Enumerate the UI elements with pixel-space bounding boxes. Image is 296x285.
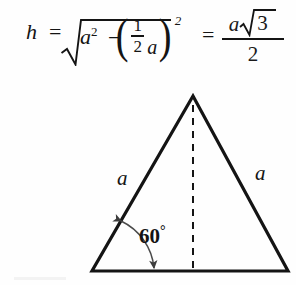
angle-value: 60 bbox=[139, 224, 160, 248]
result-fraction-bar bbox=[222, 38, 284, 40]
paren-open: ( bbox=[116, 18, 129, 53]
triangle-svg bbox=[0, 78, 296, 285]
result-fraction: a 3 2 bbox=[222, 7, 284, 67]
fraction-numerator: 1 bbox=[132, 17, 145, 34]
triangle-diagram: a a 60° bbox=[0, 78, 296, 285]
paren-close: ) bbox=[159, 18, 172, 53]
result-numerator: a 3 bbox=[226, 7, 281, 37]
result-denominator: 2 bbox=[248, 42, 259, 67]
result-sqrt-group: 3 bbox=[239, 7, 277, 37]
radicand-a: a bbox=[80, 24, 91, 49]
figure-root: h = a2 − ( 1 2 a ) 2 = a bbox=[0, 0, 296, 285]
degree-symbol: ° bbox=[160, 223, 166, 238]
scan-artifact bbox=[14, 277, 66, 280]
paren-exponent: 2 bbox=[175, 14, 182, 27]
radicand-first-term: a2 bbox=[80, 25, 98, 48]
result-numerator-a: a bbox=[229, 12, 240, 37]
result-sqrt-radicand: 3 bbox=[257, 11, 268, 36]
radicand-a-exponent: 2 bbox=[91, 24, 98, 39]
equals-sign-2: = bbox=[202, 24, 214, 46]
side-label-a-right: a bbox=[255, 161, 266, 186]
inner-variable-a: a bbox=[147, 37, 157, 57]
formula-block: h = a2 − ( 1 2 a ) 2 = a bbox=[0, 0, 296, 78]
side-label-a-left: a bbox=[117, 166, 128, 191]
parenthesized-half-a-squared: ( 1 2 a ) 2 bbox=[114, 11, 181, 61]
fraction-one-half: 1 2 bbox=[131, 17, 144, 54]
angle-label-60-degrees: 60° bbox=[139, 223, 166, 249]
formula-lhs-h: h bbox=[26, 21, 37, 43]
fraction-denominator: 2 bbox=[132, 38, 145, 55]
